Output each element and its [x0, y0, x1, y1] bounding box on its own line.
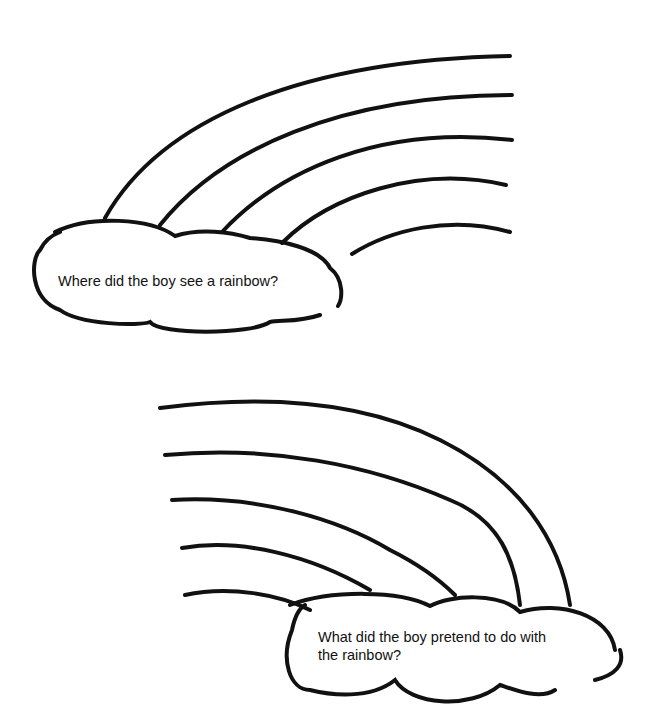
rainbow-1-arcs: [105, 56, 512, 254]
question-2: What did the boy pretend to do with the …: [318, 628, 618, 664]
rainbow-2-arcs: [160, 402, 570, 610]
question-1: Where did the boy see a rainbow?: [58, 272, 278, 290]
worksheet-drawing: [0, 0, 653, 722]
question-2-line-2: the rainbow?: [318, 646, 618, 664]
question-2-line-1: What did the boy pretend to do with: [318, 628, 618, 646]
